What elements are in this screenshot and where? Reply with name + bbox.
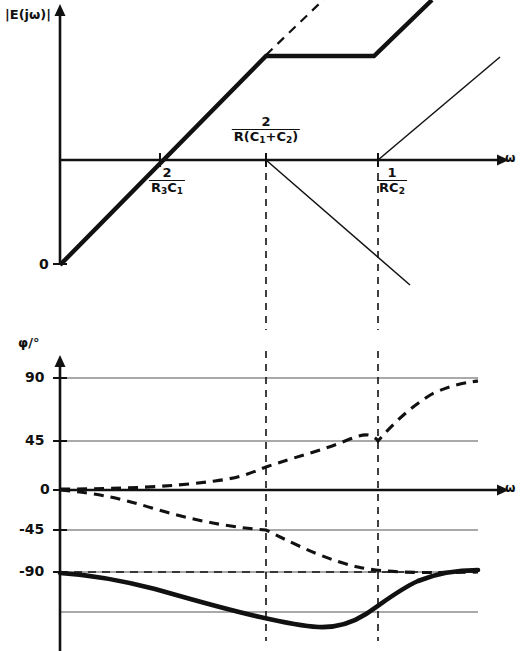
- phase-ytick-minus90: -90: [19, 564, 44, 578]
- xtick-label-w1: 2 R3C1: [149, 166, 185, 194]
- phase-axes: [55, 355, 510, 651]
- phase-y-axis-label: φ/°: [18, 336, 39, 349]
- series-phase-rising: [60, 381, 478, 489]
- series-phase-falling: [60, 490, 478, 572]
- xtick-label-w1-numerator: 2: [149, 166, 185, 180]
- phase-ytick-45: 45: [25, 433, 44, 447]
- magnitude-x-axis-label: ω: [505, 152, 515, 164]
- xtick-label-w3-numerator: 1: [377, 166, 407, 180]
- phase-plot: [0, 351, 520, 651]
- xtick-label-w3-denominator: RC2: [377, 180, 407, 195]
- phase-x-axis-label: ω: [505, 482, 515, 494]
- phase-ytick-minus45: -45: [19, 522, 44, 536]
- series-slope-continuation-dashed: [266, 0, 348, 55]
- phase-gridlines: [60, 378, 478, 612]
- xtick-label-w3: 1 RC2: [377, 166, 407, 194]
- phase-ytick-90: 90: [25, 370, 44, 384]
- magnitude-origin-label: 0: [39, 257, 49, 271]
- magnitude-plot: [0, 0, 520, 330]
- magnitude-xticks: [53, 153, 378, 264]
- figure-canvas: |E(jω)| ω 0 2 R3C1 2 R(C1+C2) 1 RC2: [0, 0, 520, 651]
- xtick-label-w2: 2 R(C1+C2): [232, 115, 300, 143]
- series-rising-asymptote: [378, 57, 500, 160]
- series-phase-total: [60, 570, 478, 627]
- phase-ytick-0: 0: [40, 482, 50, 496]
- phase-breakpoint-guides: [266, 351, 378, 641]
- xtick-label-w1-denominator: R3C1: [149, 180, 185, 195]
- xtick-label-w2-denominator: R(C1+C2): [232, 129, 300, 144]
- magnitude-y-axis-label: |E(jω)|: [5, 8, 51, 21]
- magnitude-breakpoint-guides: [266, 160, 378, 330]
- xtick-label-w2-numerator: 2: [232, 115, 300, 129]
